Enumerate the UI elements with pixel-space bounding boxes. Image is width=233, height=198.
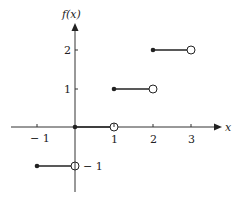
y-axis-arrow-icon bbox=[72, 23, 79, 31]
tick-label-x-2: 2 bbox=[150, 133, 157, 146]
tick-label-y-neg1: − 1 bbox=[83, 160, 103, 173]
closed-dot-icon bbox=[112, 87, 117, 92]
x-axis-label: x bbox=[225, 121, 232, 134]
open-dot-icon bbox=[187, 46, 195, 54]
y-axis-label: f(x) bbox=[61, 8, 81, 21]
tick-label-y-2: 2 bbox=[64, 44, 71, 57]
open-dot-icon bbox=[149, 85, 157, 93]
closed-dot-icon bbox=[73, 125, 78, 130]
tick-label-x-3: 3 bbox=[188, 133, 195, 146]
tick-label-y-1: 1 bbox=[64, 83, 71, 96]
step-function-graph: f(x) x − 1 1 2 3 1 2 − 1 bbox=[0, 0, 233, 198]
tick-label-x-1: 1 bbox=[111, 133, 118, 146]
closed-dot-icon bbox=[35, 164, 40, 169]
x-axis-arrow-icon bbox=[214, 124, 222, 131]
closed-dot-icon bbox=[151, 48, 156, 53]
tick-label-x-neg1: − 1 bbox=[30, 132, 50, 145]
